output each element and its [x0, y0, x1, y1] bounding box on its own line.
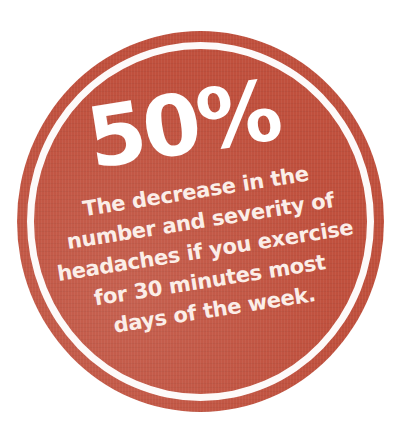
badge-content: 50% The decrease in the number and sever… — [0, 5, 400, 429]
statistic-badge: 50% The decrease in the number and sever… — [17, 31, 384, 412]
